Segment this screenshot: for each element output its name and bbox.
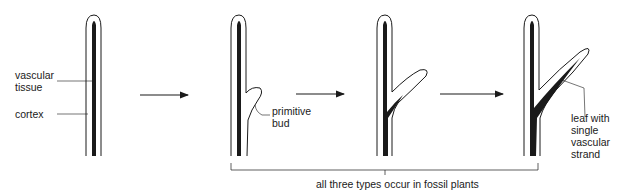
leaf-evolution-diagram: vascular tissue cortex primitive bud lea… xyxy=(0,0,622,194)
label-vascular-tissue: vascular tissue xyxy=(15,69,54,93)
label-leaf-single-vascular-strand: leaf with single vascular strand xyxy=(571,112,610,160)
diagram-graphics xyxy=(0,0,622,194)
bracket xyxy=(231,163,538,175)
stem-stage-1 xyxy=(57,15,101,156)
primitive-bud-leader xyxy=(255,105,270,115)
label-primitive-bud: primitive bud xyxy=(272,105,311,129)
bracket-caption: all three types occur in fossil plants xyxy=(316,178,479,190)
stem-stage-3 xyxy=(377,15,427,156)
label-cortex: cortex xyxy=(15,108,44,120)
stem-stage-2 xyxy=(231,15,270,156)
